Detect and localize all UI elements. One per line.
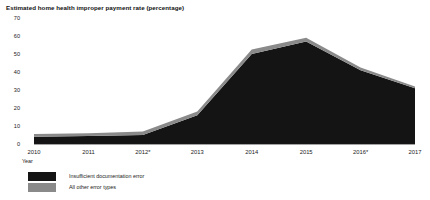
legend-swatch xyxy=(28,183,56,192)
area-series xyxy=(34,41,415,144)
chart-legend: Insufficient documentation errorAll othe… xyxy=(28,171,144,193)
x-axis-title: Year xyxy=(22,158,33,164)
legend-swatch xyxy=(28,172,56,181)
plot-area xyxy=(0,0,430,200)
legend-label: Insufficient documentation error xyxy=(69,173,144,179)
legend-item: All other error types xyxy=(28,182,144,192)
chart-container: Estimated home health improper payment r… xyxy=(0,0,430,200)
legend-label: All other error types xyxy=(69,184,116,190)
legend-item: Insufficient documentation error xyxy=(28,171,144,181)
